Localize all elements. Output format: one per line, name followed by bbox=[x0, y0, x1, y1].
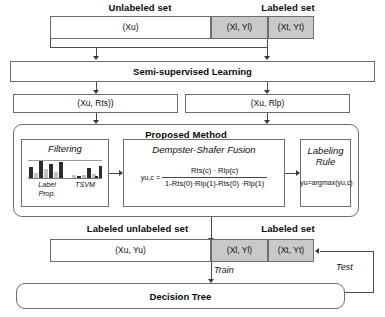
train-edge-label: Train bbox=[214, 265, 254, 276]
arrow-top-to-ssl-right-head bbox=[264, 56, 270, 60]
arrow-pm-to-bottom-line bbox=[211, 217, 212, 239]
top-unlabeled-box[interactable]: (Xu) bbox=[50, 16, 211, 39]
filtering-bar-chart bbox=[28, 157, 102, 179]
top-labeled-box-1[interactable]: (Xl, Yl) bbox=[211, 16, 268, 39]
bottom-labeled-label-2: (Xt, Yt) bbox=[278, 245, 304, 256]
arrow-train-line bbox=[211, 262, 212, 280]
top-unlabeled-label: (Xu) bbox=[122, 22, 138, 33]
bottom-labeled-caption: Labeled set bbox=[228, 223, 348, 234]
fusion-formula-fraction: Rts(c) · Rlp(c) 1-Rts(0)·Rlp(1)-Rts(0) ·… bbox=[162, 166, 267, 189]
labeling-rule-title-line2: Rule bbox=[301, 156, 350, 167]
arrow-test-horizontal bbox=[320, 251, 374, 252]
chart-bar bbox=[72, 175, 76, 178]
labeled-set-caption: Labeled set bbox=[228, 2, 348, 13]
fusion-formula: yu,c = Rts(c) · Rlp(c) 1-Rts(0)·Rlp(1)-R… bbox=[124, 166, 284, 189]
unlabeled-set-caption: Unlabeled set bbox=[60, 2, 220, 13]
top-labeled-box-2[interactable]: (Xt, Yt) bbox=[268, 16, 314, 39]
chart-bar bbox=[59, 162, 63, 178]
fusion-formula-lhs: yu,c = bbox=[141, 173, 160, 182]
chart-bar bbox=[95, 176, 98, 178]
test-edge-label: Test bbox=[336, 262, 376, 273]
filtering-label-right: TSVM bbox=[66, 181, 104, 190]
chart-bar bbox=[77, 176, 81, 178]
chart-bar bbox=[29, 167, 33, 178]
chart-bar bbox=[87, 168, 91, 178]
mid-box-right[interactable]: (Xu, Rlp) bbox=[185, 94, 350, 113]
arrow-test-head bbox=[315, 248, 319, 254]
filtering-box[interactable]: Filtering Label Prop. TSVM bbox=[21, 139, 109, 207]
arrow-top-to-ssl-left-head bbox=[93, 56, 99, 60]
chart-bar bbox=[34, 173, 38, 178]
diagram-canvas: Unlabeled set Labeled set (Xu) (Xl, Yl) … bbox=[0, 0, 385, 317]
fusion-formula-denominator: 1-Rts(0)·Rlp(1)-Rts(0) ·Rlp(1) bbox=[162, 177, 267, 189]
semi-supervised-learning-label: Semi-supervised Learning bbox=[133, 66, 252, 77]
chart-bar bbox=[39, 161, 43, 178]
mid-box-right-label: (Xu, Rlp) bbox=[251, 98, 285, 109]
bottom-unlabeled-box[interactable]: (Xu, Yu) bbox=[50, 239, 211, 262]
top-bracket-bottom bbox=[50, 47, 268, 48]
mid-box-left-label: (Xu, Rts)) bbox=[77, 98, 113, 109]
bottom-labeled-label-1: (Xl, Yl) bbox=[227, 245, 252, 256]
mid-box-left[interactable]: (Xu, Rts)) bbox=[13, 94, 178, 113]
chart-baseline bbox=[28, 178, 102, 179]
decision-tree-box[interactable]: Decision Tree bbox=[16, 283, 345, 309]
top-labeled-label-1: (Xl, Yl) bbox=[227, 22, 252, 33]
decision-tree-label: Decision Tree bbox=[150, 291, 212, 302]
filtering-label-left-line2: Prop. bbox=[30, 190, 64, 199]
fusion-box[interactable]: Dempster-Shafer Fusion yu,c = Rts(c) · R… bbox=[123, 139, 285, 207]
filtering-title: Filtering bbox=[22, 143, 108, 154]
chart-bar bbox=[82, 175, 86, 178]
labeling-rule-formula: yu=argmax(yu,c) bbox=[297, 178, 356, 187]
labeling-rule-title-line1: Labeling bbox=[301, 145, 350, 156]
labeled-unlabeled-caption: Labeled unlabeled set bbox=[50, 223, 225, 234]
labeling-rule-box[interactable]: Labeling Rule yu=argmax(yu,c) bbox=[300, 139, 351, 207]
bottom-labeled-box-2[interactable]: (Xt, Yt) bbox=[268, 239, 314, 262]
chart-bar bbox=[54, 172, 58, 178]
chart-bar bbox=[44, 169, 48, 178]
chart-bar bbox=[99, 166, 102, 178]
fusion-title: Dempster-Shafer Fusion bbox=[124, 144, 284, 155]
semi-supervised-learning-box[interactable]: Semi-supervised Learning bbox=[10, 61, 375, 82]
top-labeled-label-2: (Xt, Yt) bbox=[278, 22, 304, 33]
chart-bar bbox=[49, 164, 53, 178]
bottom-labeled-box-1[interactable]: (Xl, Yl) bbox=[211, 239, 268, 262]
fusion-formula-numerator: Rts(c) · Rlp(c) bbox=[188, 166, 241, 177]
bottom-unlabeled-label: (Xu, Yu) bbox=[115, 245, 146, 256]
arrow-test-from-tree bbox=[345, 292, 374, 293]
